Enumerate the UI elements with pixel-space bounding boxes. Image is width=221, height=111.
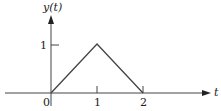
x-tick-label-2: 2	[140, 96, 147, 109]
x-axis-label: t	[214, 86, 219, 99]
signal-plot: y(t) t 1 0 1 2	[0, 0, 221, 111]
x-tick-label-1: 1	[94, 96, 101, 109]
y-axis-arrow-icon	[48, 15, 54, 24]
y-axis-label: y(t)	[42, 1, 62, 14]
y-tick-label-1: 1	[40, 39, 47, 52]
x-tick-label-0: 0	[43, 96, 50, 109]
x-axis-arrow-icon	[202, 90, 211, 96]
triangle-signal	[51, 44, 143, 93]
